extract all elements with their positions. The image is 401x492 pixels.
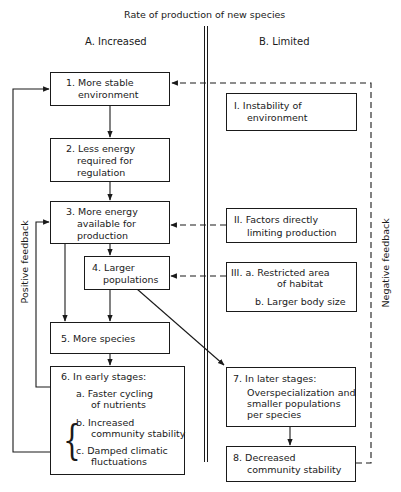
box-8-line-2: community stability — [247, 464, 341, 475]
box-6-item-a-line-2: of nutrients — [91, 399, 146, 410]
box-2-line-3: regulation — [77, 167, 125, 178]
box-6-item-a-line-1: a. Faster cycling — [76, 388, 153, 399]
box-4-larger-populations: 4. Larger populations — [84, 256, 170, 290]
brace-bc: { — [63, 419, 81, 463]
box-7-later-stages: 7. In later stages: Overspecialization a… — [226, 367, 356, 427]
box-4-line-1: 4. Larger — [92, 262, 135, 273]
box-2-line-2: required for — [77, 155, 133, 166]
box-3-more-energy-production: 3. More energy available for production — [50, 201, 170, 244]
box-II-factors-limiting-production: II. Factors directly limiting production — [226, 208, 357, 243]
box-III-line-1: III. a. Restricted area — [231, 267, 330, 278]
box-3-line-3: production — [77, 230, 128, 241]
box-2-line-1: 2. Less energy — [66, 143, 135, 154]
box-II-line-2: limiting production — [247, 227, 337, 238]
box-6-item-c-line-1: c. Damped climatic — [76, 445, 168, 456]
box-3-line-1: 3. More energy — [66, 206, 138, 217]
box-8-decreased-stability: 8. Decreased community stability — [226, 446, 356, 482]
box-III-restricted-habitat-body-size: III. a. Restricted area of habitat b. La… — [226, 262, 357, 312]
positive-feedback-label: Positive feedback — [19, 224, 30, 304]
box-5-more-species: 5. More species — [50, 322, 170, 354]
box-7-line-2: Overspecialization and — [247, 387, 356, 398]
box-I-line-1: I. Instability of — [234, 100, 302, 111]
box-III-line-3: b. Larger body size — [255, 296, 346, 307]
box-6-item-c-line-2: fluctuations — [91, 456, 147, 467]
box-1-more-stable-environment: 1. More stable environment — [50, 72, 170, 106]
box-7-line-1: 7. In later stages: — [233, 373, 316, 384]
box-6-item-b-line-1: b. Increased — [76, 417, 134, 428]
box-1-line-2: environment — [78, 89, 139, 100]
negative-feedback-label: Negative feedback — [380, 220, 391, 308]
box-1-line-1: 1. More stable — [66, 77, 134, 88]
box-8-line-1: 8. Decreased — [233, 452, 296, 463]
box-6-heading: 6. In early stages: — [61, 371, 146, 382]
box-2-less-energy-regulation: 2. Less energy required for regulation — [50, 138, 170, 182]
box-I-line-2: environment — [247, 112, 308, 123]
box-6-item-b-line-2: community stability — [91, 428, 185, 439]
box-7-line-4: per species — [247, 409, 301, 420]
box-II-line-1: II. Factors directly — [234, 214, 318, 225]
box-6-early-stages: 6. In early stages: a. Faster cycling of… — [50, 366, 185, 475]
box-III-line-2: of habitat — [277, 278, 323, 289]
box-7-line-3: smaller populations — [247, 398, 341, 409]
box-4-line-2: populations — [103, 274, 159, 285]
box-5-line-1: 5. More species — [61, 333, 135, 344]
box-I-instability-of-environment: I. Instability of environment — [226, 93, 357, 131]
box-3-line-2: available for — [77, 218, 136, 229]
column-divider — [205, 26, 208, 462]
